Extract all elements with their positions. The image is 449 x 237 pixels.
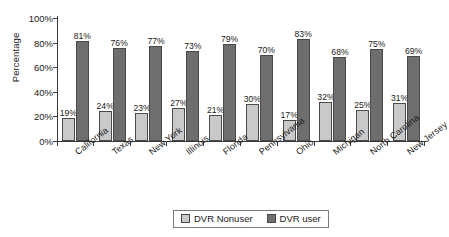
bar-value-label: 27% xyxy=(170,98,187,108)
x-axis-label-cell: Ohio xyxy=(278,147,315,207)
bar-group: 25%75% xyxy=(351,18,388,141)
x-axis-label-cell: Michigan xyxy=(315,147,352,207)
bar: 23% xyxy=(135,113,148,141)
bar-value-label: 30% xyxy=(244,94,261,104)
legend-item[interactable]: DVR user xyxy=(267,213,321,224)
bar-group: 23%77% xyxy=(131,18,168,141)
x-axis-label-cell: New York xyxy=(131,147,168,207)
bar-value-label: 21% xyxy=(207,105,224,115)
x-axis-label-cell: Florida xyxy=(204,147,241,207)
bar: 76% xyxy=(113,48,126,141)
bar-value-label: 31% xyxy=(391,93,408,103)
bar-value-label: 25% xyxy=(354,100,371,110)
legend-item[interactable]: DVR Nonuser xyxy=(181,213,253,224)
bar-value-label: 79% xyxy=(221,34,238,44)
legend-label: DVR Nonuser xyxy=(194,213,253,224)
bar-groups: 19%81%24%76%23%77%27%73%21%79%30%70%17%8… xyxy=(57,18,425,141)
y-axis-tick-label: 0% xyxy=(39,136,53,147)
y-axis-tick-label: 80% xyxy=(34,37,53,48)
x-axis-label-cell: Texas xyxy=(94,147,131,207)
bar-value-label: 24% xyxy=(97,101,114,111)
bar: 79% xyxy=(223,44,236,141)
bar-group: 32%68% xyxy=(315,18,352,141)
x-axis-label-cell: North Carolina xyxy=(351,147,388,207)
x-axis-label-cell: Pennsylvania xyxy=(241,147,278,207)
bar-value-label: 73% xyxy=(184,41,201,51)
x-axis-label-cell: California xyxy=(57,147,94,207)
bar-value-label: 77% xyxy=(147,36,164,46)
bar-value-label: 83% xyxy=(295,29,312,39)
bar-value-label: 19% xyxy=(60,108,77,118)
bar-group: 21%79% xyxy=(204,18,241,141)
x-axis-labels: CaliforniaTexasNew YorkIllinoisFloridaPe… xyxy=(57,147,425,207)
bar-group: 30%70% xyxy=(241,18,278,141)
bar-value-label: 69% xyxy=(405,46,422,56)
bar: 73% xyxy=(186,51,199,141)
bar: 77% xyxy=(149,46,162,141)
bar: 21% xyxy=(209,115,222,141)
bar-value-label: 68% xyxy=(331,47,348,57)
bar-value-label: 32% xyxy=(317,92,334,102)
legend-swatch-icon xyxy=(181,214,190,223)
bar: 68% xyxy=(333,57,346,141)
x-axis-label-cell: New Jersey xyxy=(388,147,425,207)
bar-value-label: 75% xyxy=(368,39,385,49)
bar-value-label: 76% xyxy=(111,38,128,48)
bar-value-label: 23% xyxy=(133,103,150,113)
legend-swatch-icon xyxy=(267,214,276,223)
bar: 81% xyxy=(76,41,89,141)
bar: 30% xyxy=(246,104,259,141)
bar-group: 24%76% xyxy=(94,18,131,141)
y-axis-tick-label: 40% xyxy=(34,86,53,97)
bar: 19% xyxy=(62,118,75,141)
bar-value-label: 81% xyxy=(74,31,91,41)
legend-label: DVR user xyxy=(280,213,321,224)
y-axis-title: Percentage xyxy=(10,13,21,103)
chart-legend: DVR NonuserDVR user xyxy=(173,210,329,228)
y-axis-tick-label: 100% xyxy=(29,13,53,24)
y-axis-tick-label: 20% xyxy=(34,111,53,122)
bar-value-label: 70% xyxy=(258,45,275,55)
bar: 70% xyxy=(260,55,273,141)
bar-group: 19%81% xyxy=(57,18,94,141)
bar: 32% xyxy=(319,102,332,141)
y-axis-tick-label: 60% xyxy=(34,62,53,73)
bar-group: 27%73% xyxy=(167,18,204,141)
x-axis-label-cell: Illinois xyxy=(167,147,204,207)
bar: 75% xyxy=(370,49,383,141)
